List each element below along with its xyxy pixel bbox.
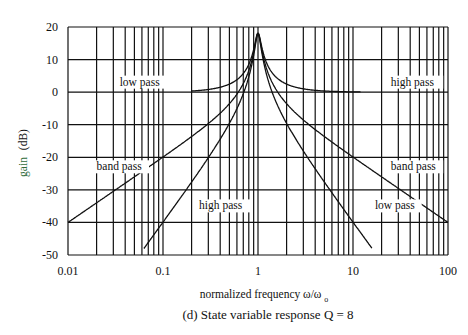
x-tick-label: 0.1	[156, 264, 171, 278]
y-axis-label-unit: (dB)	[17, 129, 30, 150]
high-pass-label: high pass	[199, 199, 243, 212]
y-tick-label: -20	[42, 150, 58, 164]
vertical-gridlines	[68, 27, 448, 255]
chart-caption: (d) State variable response Q = 8	[182, 307, 353, 322]
x-tick-label: 100	[439, 264, 457, 278]
y-tick-label: -10	[42, 118, 58, 132]
curve-labels: low passhigh passband passband passhigh …	[95, 76, 444, 213]
y-tick-label: 0	[52, 85, 58, 99]
high-pass-label: high pass	[391, 76, 435, 89]
x-axis-label-main: normalized frequency ω/ω	[200, 288, 322, 301]
y-tick-label: 20	[46, 20, 58, 34]
state-variable-response-chart: low passhigh passband passband passhigh …	[0, 0, 468, 335]
y-axis-label-main: gain	[17, 157, 30, 177]
y-tick-label: -30	[42, 183, 58, 197]
x-axis-label-subscript: o	[324, 295, 328, 304]
x-tick-label: 10	[347, 264, 359, 278]
x-tick-label: 1	[255, 264, 261, 278]
y-axis-label: gain (dB)	[17, 129, 30, 177]
low-pass-label: low pass	[375, 199, 415, 212]
y-tick-label: -40	[42, 215, 58, 229]
low-pass-label: low pass	[120, 76, 160, 89]
band-pass-label: band pass	[391, 160, 437, 173]
y-tick-label: 10	[46, 53, 58, 67]
x-axis-ticks: 0.010.1110100	[58, 264, 458, 278]
y-axis-ticks: 20100-10-20-30-40-50	[42, 20, 58, 262]
y-tick-label: -50	[42, 248, 58, 262]
x-axis-label: normalized frequency ω/ω o	[200, 288, 329, 304]
band-pass-label: band pass	[97, 160, 143, 173]
x-tick-label: 0.01	[58, 264, 79, 278]
high-pass-curve	[144, 34, 361, 249]
